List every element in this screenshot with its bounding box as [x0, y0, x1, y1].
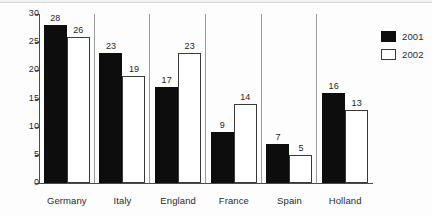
- y-axis-tick-label: 0: [13, 177, 39, 187]
- bar-value-label: 23: [95, 41, 126, 51]
- y-axis-tick-label: 25: [13, 36, 39, 46]
- x-axis-category-label: France: [206, 195, 262, 206]
- scan-artifact-line: [0, 2, 432, 3]
- bar-italy-2002[interactable]: [122, 76, 145, 183]
- bar-england-2002[interactable]: [178, 53, 201, 183]
- bar-value-label: 14: [230, 92, 261, 102]
- y-axis-tick-label: 10: [13, 121, 39, 131]
- y-axis-tick-label: 15: [13, 93, 39, 103]
- bar-value-label: 7: [262, 132, 293, 142]
- bar-england-2001[interactable]: [155, 87, 178, 183]
- bar-germany-2002[interactable]: [67, 37, 90, 183]
- legend-swatch-2002: [381, 49, 396, 60]
- bar-holland-2002[interactable]: [345, 110, 368, 183]
- legend-item-2002[interactable]: 2002: [381, 48, 429, 61]
- x-axis-category-label: Germany: [39, 195, 95, 206]
- bar-value-label: 28: [40, 13, 71, 23]
- bar-france-2002[interactable]: [234, 104, 257, 183]
- bar-value-label: 16: [318, 81, 349, 91]
- legend-swatch-2001: [381, 31, 396, 42]
- bar-germany-2001[interactable]: [44, 25, 67, 183]
- legend-item-2001[interactable]: 2001: [381, 30, 429, 43]
- x-axis-category-label: Holland: [317, 195, 373, 206]
- group-separator: [94, 14, 95, 183]
- x-axis-category-label: Spain: [262, 195, 318, 206]
- y-axis-line: [39, 14, 40, 184]
- bar-value-label: 5: [285, 143, 316, 153]
- y-axis-tick-label: 30: [13, 8, 39, 18]
- bar-value-label: 23: [174, 41, 205, 51]
- y-axis-tick-label: 5: [13, 149, 39, 159]
- x-axis-line: [39, 183, 373, 184]
- bar-france-2001[interactable]: [211, 132, 234, 183]
- bar-value-label: 13: [341, 98, 372, 108]
- bar-value-label: 26: [63, 25, 94, 35]
- y-axis-tick-label: 20: [13, 64, 39, 74]
- chart-canvas: 051015202530 2826Germany2319Italy1723Eng…: [0, 0, 432, 216]
- x-axis-category-label: Italy: [95, 195, 151, 206]
- legend-label: 2001: [402, 31, 424, 42]
- legend-label: 2002: [402, 49, 424, 60]
- legend: 20012002: [381, 30, 429, 66]
- bar-spain-2002[interactable]: [289, 155, 312, 183]
- group-separator: [316, 14, 317, 183]
- bar-value-label: 19: [118, 64, 149, 74]
- group-separator: [261, 14, 262, 183]
- group-separator: [149, 14, 150, 183]
- group-separator: [205, 14, 206, 183]
- x-axis-category-label: England: [150, 195, 206, 206]
